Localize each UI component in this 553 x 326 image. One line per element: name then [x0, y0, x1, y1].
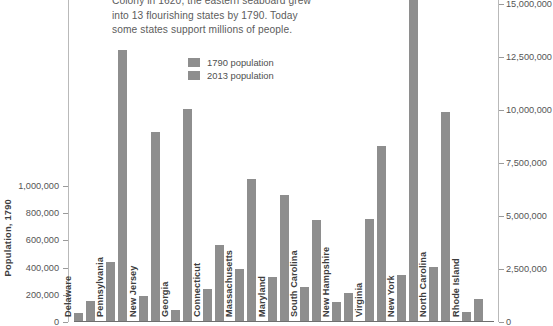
left-axis-tick-label: 600,000 [26, 236, 74, 245]
right-axis-tick-label: 0 [506, 318, 511, 326]
state-label: Rhode Island [452, 258, 461, 317]
bar-2013[interactable] [151, 132, 160, 321]
bar-1790[interactable] [397, 275, 406, 321]
left-axis-tick-label: 800,000 [26, 209, 74, 218]
bar-1790[interactable] [203, 289, 212, 321]
bar-group: New Hampshire [332, 0, 364, 321]
bar-1790[interactable] [462, 312, 471, 321]
right-axis-tick-label: 2,500,000 [506, 265, 547, 274]
state-label: Georgia [161, 282, 170, 317]
bar-1790[interactable] [300, 287, 309, 321]
bar-group: Massachusetts [235, 0, 267, 321]
bar-1790[interactable] [139, 296, 148, 321]
bar-1790[interactable] [429, 267, 438, 321]
chart-root: Colony in 1620, the eastern seaboard gre… [0, 0, 553, 326]
bar-group: Virginia [365, 0, 397, 321]
right-axis-tick-label: 12,500,000 [506, 53, 552, 62]
right-axis-tick [499, 216, 504, 217]
bar-1790[interactable] [332, 302, 341, 321]
state-label: New York [387, 275, 396, 317]
state-label: Delaware [64, 276, 73, 317]
plot-area: 0200,000400,000600,000800,0001,000,000 0… [74, 0, 494, 322]
state-label: North Carolina [419, 252, 428, 317]
bar-2013[interactable] [215, 245, 224, 321]
bar-2013[interactable] [280, 195, 289, 321]
bar-2013[interactable] [247, 179, 256, 321]
right-axis-tick-label: 7,500,000 [506, 159, 547, 168]
right-axis-tick [499, 163, 504, 164]
left-axis-tick-label: 0 [54, 318, 74, 326]
bar-2013[interactable] [474, 299, 483, 321]
bar-2013[interactable] [377, 146, 386, 321]
bar-group: New Jersey [139, 0, 171, 321]
state-label: New Hampshire [322, 247, 331, 317]
bar-2013[interactable] [409, 0, 418, 321]
right-axis-tick-label: 10,000,000 [506, 106, 552, 115]
left-axis-spine [68, 0, 69, 322]
bar-2013[interactable] [441, 112, 450, 321]
state-label: Connecticut [193, 263, 202, 317]
right-axis-tick [499, 4, 504, 5]
right-axis-tick-label: 5,000,000 [506, 212, 547, 221]
bar-group: Rhode Island [462, 0, 494, 321]
state-label: Maryland [258, 276, 267, 317]
bar-1790[interactable] [365, 219, 374, 321]
right-axis-tick [499, 322, 504, 323]
state-label: South Carolina [290, 250, 299, 317]
right-axis-spine [498, 0, 499, 322]
state-label: Virginia [355, 283, 364, 317]
right-axis-tick [499, 110, 504, 111]
left-axis-title: Population, 1790 [2, 199, 13, 277]
bar-1790[interactable] [106, 262, 115, 321]
bar-1790[interactable] [235, 269, 244, 321]
state-label: New Jersey [129, 266, 138, 318]
right-axis-tick-label: 15,000,000 [506, 0, 552, 9]
bar-2013[interactable] [118, 50, 127, 321]
bar-2013[interactable] [344, 293, 353, 321]
left-axis-tick-label: 1,000,000 [18, 182, 74, 191]
x-axis-baseline [74, 321, 494, 322]
bar-2013[interactable] [312, 220, 321, 321]
left-axis-tick-label: 400,000 [26, 264, 74, 273]
right-axis-tick [499, 57, 504, 58]
bar-2013[interactable] [183, 109, 192, 321]
bar-1790[interactable] [74, 313, 83, 321]
bar-2013[interactable] [86, 301, 95, 321]
bar-groups: DelawarePennsylvaniaNew JerseyGeorgiaCon… [74, 0, 494, 321]
state-label: Massachusetts [225, 250, 234, 317]
bar-1790[interactable] [268, 277, 277, 321]
state-label: Pennsylvania [96, 257, 105, 317]
right-axis-tick [499, 269, 504, 270]
bar-1790[interactable] [171, 310, 180, 321]
